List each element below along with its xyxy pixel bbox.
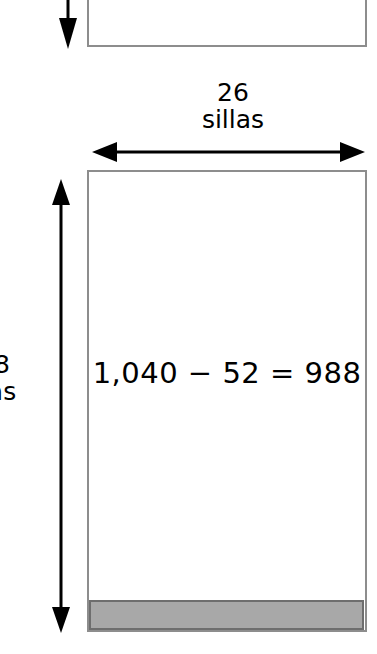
equation-text: 1,040 − 52 = 988	[87, 358, 367, 389]
top-down-arrow	[59, 0, 77, 49]
horizontal-dimension-arrow	[92, 142, 365, 162]
width-value: 26	[153, 80, 313, 107]
diagram-canvas: 26 sillas 8 as 1,040 − 52 = 988	[0, 0, 377, 654]
height-value: 8	[0, 352, 30, 379]
vertical-dimension-arrow	[52, 179, 70, 633]
height-unit: as	[0, 379, 30, 406]
width-dimension-label: 26 sillas	[153, 80, 313, 133]
main-rectangle	[87, 170, 367, 632]
width-unit: sillas	[153, 107, 313, 134]
top-rectangle	[87, 0, 367, 47]
height-dimension-label: 8 as	[0, 352, 30, 405]
shaded-strip	[89, 600, 364, 630]
